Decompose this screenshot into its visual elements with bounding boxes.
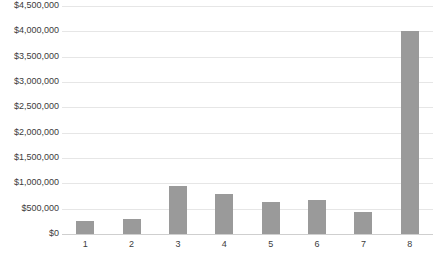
x-axis-tick-label: 4 <box>212 239 236 249</box>
y-axis-tick-label: $2,000,000 <box>1 128 59 137</box>
y-axis-tick-label: $1,500,000 <box>1 153 59 162</box>
x-axis: 12345678 <box>62 0 433 263</box>
y-axis-tick-label: $3,500,000 <box>1 52 59 61</box>
x-axis-tick-label: 5 <box>259 239 283 249</box>
y-axis-tick-label: $3,000,000 <box>1 77 59 86</box>
x-axis-tick-label: 6 <box>305 239 329 249</box>
y-axis-tick-label: $4,000,000 <box>1 26 59 35</box>
y-axis-tick-label: $500,000 <box>1 204 59 213</box>
bar-chart: $0$500,000$1,000,000$1,500,000$2,000,000… <box>0 0 437 263</box>
y-axis: $0$500,000$1,000,000$1,500,000$2,000,000… <box>0 0 59 263</box>
x-axis-tick-label: 2 <box>120 239 144 249</box>
y-axis-tick-label: $2,500,000 <box>1 102 59 111</box>
x-axis-tick-label: 7 <box>351 239 375 249</box>
y-axis-tick-label: $0 <box>1 229 59 238</box>
x-axis-tick-label: 1 <box>73 239 97 249</box>
x-axis-tick-label: 8 <box>398 239 422 249</box>
y-axis-tick-label: $4,500,000 <box>1 1 59 10</box>
x-axis-tick-label: 3 <box>166 239 190 249</box>
y-axis-tick-label: $1,000,000 <box>1 178 59 187</box>
